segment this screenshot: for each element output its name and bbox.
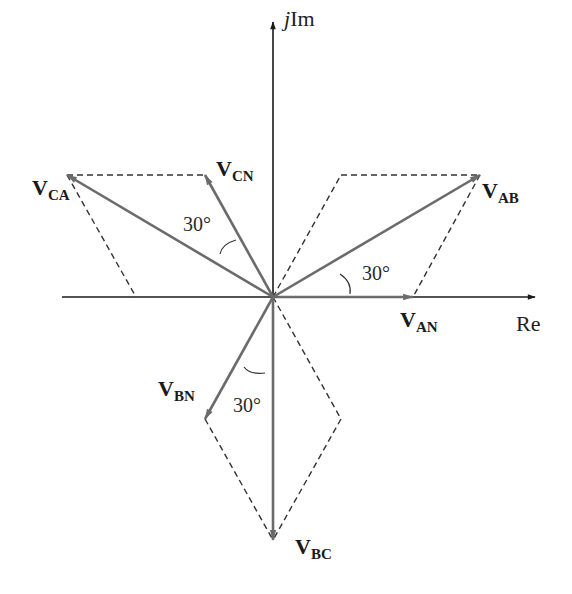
label-vca: VCA: [32, 177, 70, 203]
angle-label-ca-cn: 30°: [183, 214, 211, 234]
phasor-diagram: [0, 0, 572, 594]
arc-bn-bc: [244, 367, 265, 373]
angle-arcs: [220, 240, 350, 373]
imag-im: Im: [290, 6, 314, 31]
label-vcn: VCN: [216, 158, 254, 184]
label-vbn: VBN: [158, 378, 195, 404]
angle-label-ab-an: 30°: [362, 263, 390, 283]
label-van: VAN: [400, 309, 438, 335]
angle-label-bn-bc: 30°: [233, 395, 261, 415]
imag-axis-label: jIm: [284, 8, 315, 30]
label-vab: VAB: [482, 180, 519, 206]
label-vbc: VBC: [295, 536, 332, 562]
phasor-vcn: [205, 175, 273, 297]
arc-ab-an: [340, 274, 350, 294]
real-axis-label: Re: [516, 313, 540, 335]
phasor-vca: [67, 175, 273, 297]
arc-ca-cn: [220, 240, 236, 254]
